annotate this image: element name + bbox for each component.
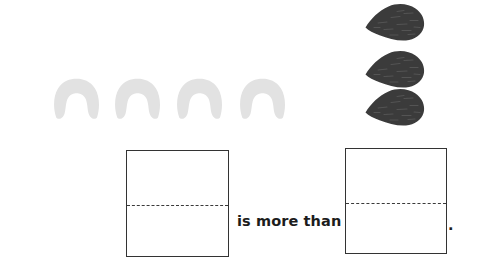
worksheet-canvas: is more than . bbox=[0, 0, 481, 280]
fold-line bbox=[346, 203, 446, 204]
seed-teardrop-icon bbox=[364, 50, 426, 88]
right-answer-box[interactable] bbox=[345, 148, 447, 254]
sentence-period: . bbox=[448, 218, 454, 233]
comparison-phrase: is more than bbox=[237, 213, 341, 229]
left-answer-box[interactable] bbox=[126, 150, 229, 257]
seed-teardrop-icon bbox=[364, 3, 426, 41]
fold-line bbox=[127, 205, 228, 206]
right-object-group bbox=[0, 0, 481, 140]
seed-teardrop-icon bbox=[364, 88, 426, 126]
